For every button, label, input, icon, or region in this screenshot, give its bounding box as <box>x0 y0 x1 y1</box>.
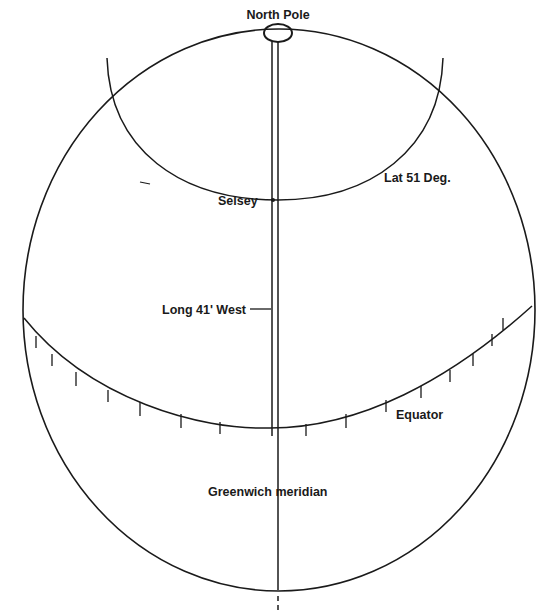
globe-svg: North Pole Selsey Lat 51 Deg. Long 41' W… <box>0 0 554 613</box>
selsey-label: Selsey <box>218 194 258 208</box>
north-pole-marker <box>264 24 292 42</box>
latitude-label: Lat 51 Deg. <box>384 171 451 185</box>
globe-diagram: North Pole Selsey Lat 51 Deg. Long 41' W… <box>0 0 554 613</box>
latitude-leader <box>140 182 150 184</box>
sphere-outline <box>23 29 535 591</box>
selsey-point <box>271 198 275 202</box>
greenwich-label: Greenwich meridian <box>208 485 327 499</box>
equator-label: Equator <box>396 408 443 422</box>
north-pole-label: North Pole <box>246 8 309 22</box>
longitude-label: Long 41' West <box>162 303 247 317</box>
